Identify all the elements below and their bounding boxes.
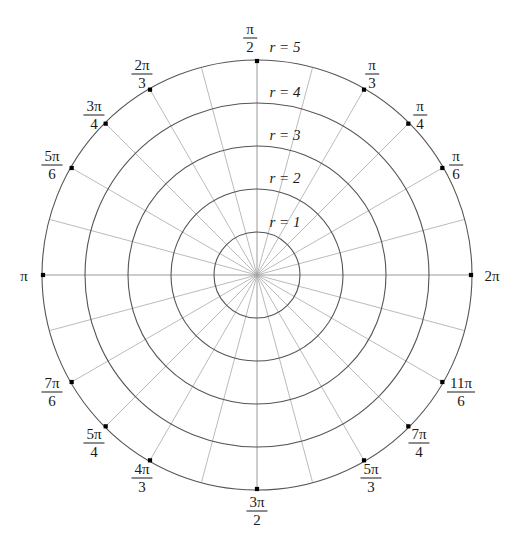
radius-label-1: r = 1 [270,215,301,230]
angle-label-pi-2-numerator: π [243,22,257,39]
angular-gridline-120 [150,90,257,275]
angle-label-pi-text: π [20,268,28,284]
angle-label-5pi-6-numerator: 5π [41,149,62,166]
angular-gridline-285 [257,275,312,482]
angular-gridline-300 [257,275,364,460]
angle-label-pi-2-fraction: π2 [243,22,257,55]
polar-grid-svg [0,0,520,544]
angle-label-7pi-4: 7π4 [408,427,429,460]
angle-label-5pi-6-fraction: 5π6 [41,149,62,182]
angle-label-7pi-6-fraction: 7π6 [41,376,62,409]
angular-gridline-345 [257,275,464,330]
angle-label-3pi-2-fraction: 3π2 [246,495,267,528]
angle-label-pi: π [20,268,28,284]
angular-gridline-165 [50,220,257,275]
radius-label-3: r = 3 [270,128,301,143]
angular-gridline-255 [202,275,257,482]
angle-label-5pi-6-denominator: 6 [41,166,62,182]
angle-label-pi-6: π6 [449,149,463,182]
angle-label-2pi: 2π [484,268,499,284]
angle-label-4pi-3: 4π3 [131,462,152,495]
angle-label-4pi-3-fraction: 4π3 [131,462,152,495]
radius-label-5: r = 5 [270,40,301,55]
angle-label-pi-6-denominator: 6 [449,166,463,182]
angle-label-11pi-6-numerator: 11π [447,376,475,393]
angular-gridline-240 [150,275,257,460]
angle-label-2pi-3-denominator: 3 [131,75,152,91]
angle-label-5pi-6: 5π6 [41,149,62,182]
angular-gridline-105 [202,68,257,275]
angle-label-7pi-4-fraction: 7π4 [408,427,429,460]
angle-label-7pi-6: 7π6 [41,376,62,409]
angle-tick-dot-330 [440,380,444,384]
angle-label-3pi-2-numerator: 3π [246,495,267,512]
angle-tick-dot-210 [70,380,74,384]
angle-label-4pi-3-denominator: 3 [131,479,152,495]
angle-label-11pi-6: 11π6 [447,376,475,409]
angle-label-3pi-2: 3π2 [246,495,267,528]
angle-label-pi-3: π3 [365,58,379,91]
angle-label-7pi-4-denominator: 4 [408,444,429,460]
angle-label-pi-6-numerator: π [449,149,463,166]
angle-label-2pi-3-numerator: 2π [131,58,152,75]
angular-gridline-330 [257,275,442,382]
angular-gridline-315 [257,275,408,426]
angle-label-3pi-2-denominator: 2 [246,512,267,528]
angle-label-11pi-6-fraction: 11π6 [447,376,475,409]
angle-tick-dot-45 [406,122,410,126]
angle-label-5pi-4-numerator: 5π [83,427,104,444]
angular-gridline-195 [50,275,257,330]
angle-label-2pi-3: 2π3 [131,58,152,91]
angular-gridline-210 [72,275,257,382]
angle-label-3pi-4-denominator: 4 [83,116,104,132]
angle-label-pi-3-fraction: π3 [365,58,379,91]
angle-label-7pi-4-numerator: 7π [408,427,429,444]
angle-tick-dot-0 [469,273,473,277]
angle-tick-dot-270 [255,487,259,491]
angle-label-pi-2-denominator: 2 [243,39,257,55]
angle-label-pi-4-numerator: π [413,99,427,116]
angle-label-pi-3-numerator: π [365,58,379,75]
angle-label-pi-2: π2 [243,22,257,55]
angular-gridline-150 [72,168,257,275]
angle-label-7pi-6-numerator: 7π [41,376,62,393]
angle-label-pi-3-denominator: 3 [365,75,379,91]
angle-label-5pi-3-fraction: 5π3 [360,462,381,495]
angle-label-5pi-4-fraction: 5π4 [83,427,104,460]
angle-label-5pi-4: 5π4 [83,427,104,460]
angle-label-5pi-3-numerator: 5π [360,462,381,479]
angle-tick-dot-90 [255,59,259,63]
angle-label-pi-4-denominator: 4 [413,116,427,132]
angular-gridline-135 [106,124,257,275]
angle-tick-dot-30 [440,166,444,170]
radius-label-2: r = 2 [270,171,301,186]
angle-label-5pi-3-denominator: 3 [360,479,381,495]
angle-label-pi-4-fraction: π4 [413,99,427,132]
polar-coordinate-grid: π2π3π4π62π11π67π45π33π24π35π47π6π5π63π42… [0,0,520,544]
angular-gridline-45 [257,124,408,275]
angle-label-4pi-3-numerator: 4π [131,462,152,479]
angle-label-11pi-6-denominator: 6 [447,393,475,409]
angle-tick-dot-180 [41,273,45,277]
angle-tick-dot-150 [70,166,74,170]
angle-label-5pi-3: 5π3 [360,462,381,495]
angle-label-pi-6-fraction: π6 [449,149,463,182]
angle-label-3pi-4: 3π4 [83,99,104,132]
angle-label-3pi-4-fraction: 3π4 [83,99,104,132]
angle-label-2pi-text: 2π [484,268,499,284]
angle-label-pi-4: π4 [413,99,427,132]
angle-label-5pi-4-denominator: 4 [83,444,104,460]
radius-label-4: r = 4 [270,85,301,100]
angular-gridline-225 [106,275,257,426]
angle-label-2pi-3-fraction: 2π3 [131,58,152,91]
angle-label-3pi-4-numerator: 3π [83,99,104,116]
angle-label-7pi-6-denominator: 6 [41,393,62,409]
